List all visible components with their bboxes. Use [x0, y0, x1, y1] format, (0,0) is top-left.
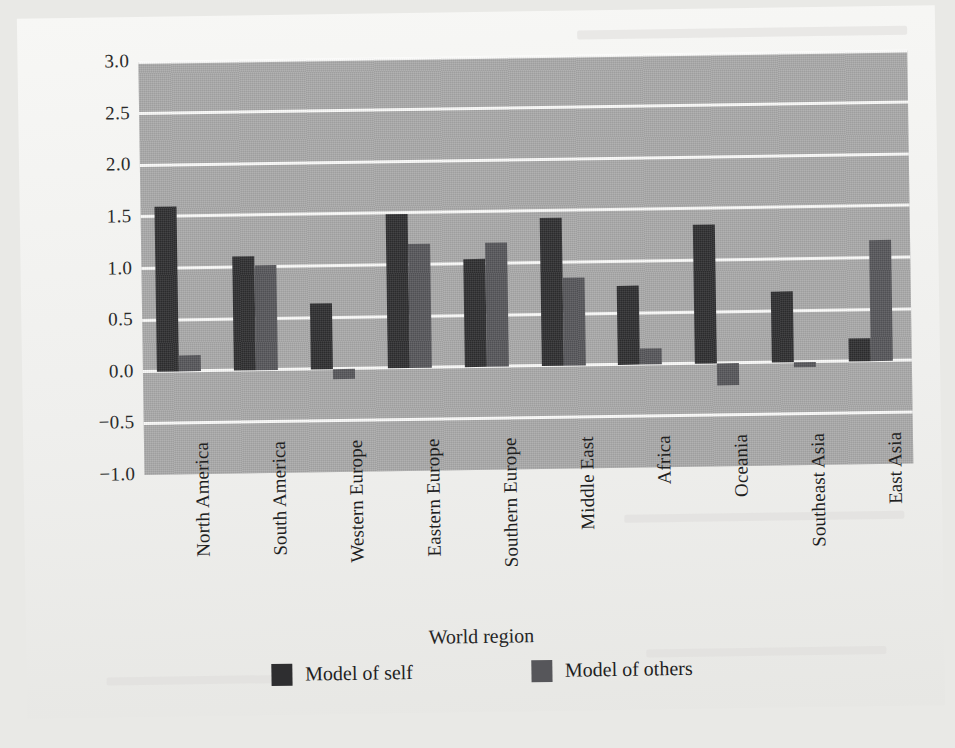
bar-group [138, 61, 221, 475]
y-tick-label: 0.5 [89, 308, 133, 331]
bar-group [292, 59, 375, 473]
bar [539, 218, 563, 366]
legend-swatch [271, 663, 292, 685]
bar [693, 225, 717, 364]
bar [254, 265, 278, 370]
bar [232, 256, 256, 370]
bar-group [677, 53, 760, 467]
legend-swatch [531, 659, 552, 681]
bar-group [830, 51, 913, 465]
bar [794, 362, 816, 367]
bar [485, 242, 509, 366]
x-axis-ticks: North AmericaSouth AmericaWestern Europe… [145, 474, 916, 635]
bar [617, 286, 640, 365]
bar [869, 240, 893, 361]
bar [640, 349, 662, 365]
bar-group [753, 52, 836, 466]
x-tick-label: Southern Europe [499, 437, 524, 627]
bar [771, 291, 794, 363]
bar-group [600, 54, 683, 468]
bar [562, 277, 585, 365]
bar [408, 244, 432, 368]
y-tick-label: 2.5 [86, 102, 130, 125]
bar [463, 259, 487, 367]
bar-group [369, 57, 452, 471]
bar [333, 369, 355, 380]
y-axis-ticks: 3.02.52.01.51.00.50.0−0.5−1.0 [73, 62, 135, 476]
bar [154, 206, 178, 371]
x-tick-label: North America [191, 442, 216, 632]
bar [717, 363, 739, 386]
y-tick-label: 3.0 [85, 50, 129, 73]
bar-series-container [138, 51, 913, 475]
y-tick-label: 1.0 [88, 257, 132, 280]
bar-group [523, 55, 606, 469]
bar [385, 214, 409, 368]
y-tick-label: −1.0 [91, 463, 135, 486]
legend-item[interactable]: Model of self [271, 661, 413, 686]
chart-legend: Model of selfModel of others [4, 653, 955, 690]
legend-item[interactable]: Model of others [531, 657, 693, 682]
plot-area [138, 51, 913, 475]
x-tick-label: Oceania [730, 434, 755, 624]
bar-group [215, 60, 298, 474]
x-tick-label: Africa [653, 435, 678, 625]
x-tick-label: South America [268, 441, 293, 631]
bar-group [446, 56, 529, 470]
x-tick-label: Middle East [576, 436, 601, 626]
y-tick-label: 0.0 [90, 360, 134, 383]
bar [310, 303, 333, 369]
y-tick-label: 1.5 [87, 205, 131, 228]
bar [179, 355, 201, 371]
y-tick-label: 2.0 [87, 153, 131, 176]
x-tick-label: Eastern Europe [422, 438, 447, 628]
scanned-page: Internal working models 3.02.52.01.51.00… [0, 0, 955, 748]
x-tick-label: East Asia [883, 432, 908, 622]
bar-chart-figure: Internal working models 3.02.52.01.51.00… [0, 0, 955, 748]
x-tick-label: Southeast Asia [807, 433, 832, 623]
y-tick-label: −0.5 [91, 411, 135, 434]
x-tick-label: Western Europe [345, 440, 370, 630]
legend-label: Model of others [565, 657, 693, 682]
legend-label: Model of self [305, 661, 413, 686]
bar [849, 338, 871, 361]
